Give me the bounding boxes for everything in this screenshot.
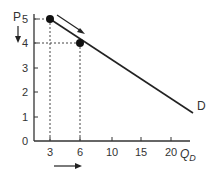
y-tick-label: 5 — [22, 13, 28, 25]
y-tick-label: 3 — [22, 62, 28, 74]
y-axis-label: P — [13, 10, 21, 24]
y-tick-label: 1 — [22, 111, 28, 123]
x-axis-label: QD — [180, 147, 196, 163]
y-ticks: 5 4 3 2 1 0 — [22, 13, 38, 147]
y-tick-label: 0 — [22, 135, 28, 147]
data-point — [46, 15, 54, 23]
x-tick-label: 3 — [47, 146, 53, 158]
data-point — [76, 39, 84, 47]
y-tick-label: 2 — [22, 86, 28, 98]
x-tick-label: 15 — [135, 146, 147, 158]
x-tick-label: 6 — [77, 146, 83, 158]
demand-curve-chart: 5 4 3 2 1 0 3 6 10 15 20 P — [0, 0, 206, 171]
arrow-right-icon — [54, 163, 82, 169]
x-tick-label: 20 — [165, 146, 177, 158]
y-tick-label: 4 — [22, 37, 28, 49]
arrow-down-icon — [15, 26, 21, 43]
arrow-down-right-icon — [57, 15, 85, 34]
x-ticks: 3 6 10 15 20 — [47, 137, 177, 158]
curve-label: D — [197, 99, 206, 113]
x-tick-label: 10 — [106, 146, 118, 158]
dashed-guides — [34, 19, 80, 141]
demand-curve-line — [50, 19, 193, 113]
